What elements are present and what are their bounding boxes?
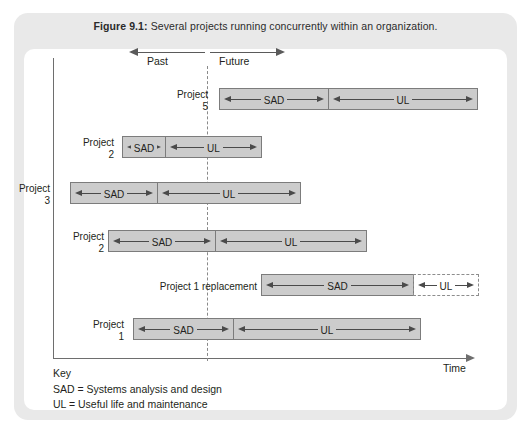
gantt-bar-label-text: UL [437, 281, 456, 292]
gantt-row: SADUL [0, 88, 531, 110]
gantt-row: SADUL [0, 318, 531, 340]
gantt-bar-label: SAD [109, 231, 215, 253]
time-axis-label: Time [443, 362, 466, 374]
gantt-bar-label-text: SAD [170, 325, 197, 336]
gantt-bar-label: UL [234, 319, 420, 341]
key-line-ul: UL = Useful life and maintenance [53, 397, 222, 413]
time-axis [53, 358, 469, 359]
gantt-bar-sad[interactable]: SAD [133, 318, 234, 340]
gantt-bar-label: UL [329, 89, 477, 111]
gantt-bar-sad[interactable]: SAD [261, 274, 414, 296]
future-label: Future [219, 55, 249, 67]
gantt-bar-ul[interactable]: UL [165, 136, 262, 158]
time-axis-arrow-icon [466, 354, 475, 362]
gantt-bar-label: SAD [71, 183, 157, 205]
gantt-bar-label-text: UL [282, 237, 301, 248]
gantt-row: SADUL [0, 182, 531, 204]
gantt-bar-label-text: SAD [131, 143, 158, 154]
gantt-bar-label: UL [216, 231, 366, 253]
past-label: Past [147, 55, 168, 67]
gantt-bar-label: UL [166, 137, 261, 159]
gantt-bar-label: SAD [134, 319, 233, 341]
gantt-bar-label: UL [414, 275, 478, 297]
gantt-row: SADUL [0, 230, 531, 252]
gantt-bar-label-text: UL [220, 189, 239, 200]
gantt-bar-label-text: UL [204, 143, 223, 154]
gantt-bar-ul[interactable]: UL [413, 274, 479, 296]
key-line-sad: SAD = Systems analysis and design [53, 382, 222, 398]
gantt-row: SADUL [0, 274, 531, 296]
gantt-bar-ul[interactable]: UL [157, 182, 301, 204]
future-rule [210, 52, 278, 53]
gantt-bar-label-text: SAD [101, 189, 128, 200]
gantt-bar-ul[interactable]: UL [328, 88, 478, 110]
future-arrow-icon [276, 48, 285, 56]
past-rule [137, 52, 205, 53]
key-title: Key [53, 366, 222, 382]
gantt-bar-sad[interactable]: SAD [219, 88, 329, 110]
gantt-bar-label-text: SAD [324, 281, 351, 292]
gantt-bar-label-text: SAD [149, 237, 176, 248]
key-block: Key SAD = Systems analysis and design UL… [53, 366, 222, 413]
gantt-row: SADUL [0, 136, 531, 158]
figure-root: Figure 9.1: Several projects running con… [0, 0, 531, 434]
gantt-bar-sad[interactable]: SAD [122, 136, 166, 158]
gantt-bar-sad[interactable]: SAD [108, 230, 216, 252]
gantt-bar-ul[interactable]: UL [233, 318, 421, 340]
gantt-bar-label-text: UL [394, 95, 413, 106]
gantt-bar-label: SAD [123, 137, 165, 159]
gantt-bar-label: SAD [220, 89, 328, 111]
gantt-bar-label-text: SAD [261, 95, 288, 106]
gantt-bar-ul[interactable]: UL [215, 230, 367, 252]
gantt-bar-label: SAD [262, 275, 413, 297]
gantt-bar-sad[interactable]: SAD [70, 182, 158, 204]
gantt-bar-label: UL [158, 183, 300, 205]
gantt-bar-label-text: UL [318, 325, 337, 336]
